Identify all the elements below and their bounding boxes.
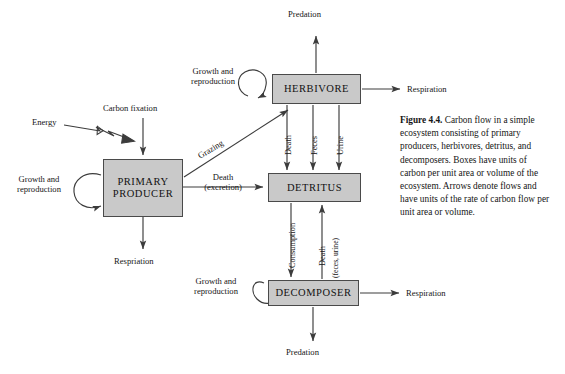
node-decomposer-label: DECOMPOSER — [275, 287, 351, 299]
label-herb-growth-line1: Growth and — [193, 66, 234, 76]
node-primary-producer-line1: PRIMARY — [117, 176, 168, 187]
arrow-loop-primary-producer — [74, 174, 101, 208]
label-herb-growth-line2: reproduction — [191, 76, 235, 86]
label-herbivore-respiration: Respiration — [407, 84, 447, 94]
node-herbivore-label: HERBIVORE — [284, 83, 349, 95]
node-detritus: DETRITUS — [268, 173, 361, 202]
label-consumption: Consumption — [288, 223, 297, 268]
node-primary-producer-line2: PRODUCER — [113, 188, 173, 199]
label-decomposer-death: Death — [318, 246, 327, 266]
node-primary-producer: PRIMARY PRODUCER — [103, 159, 183, 217]
label-herbivore-urine: Urine — [336, 136, 345, 155]
label-energy: Energy — [32, 117, 57, 127]
label-herbivore-death: Death — [284, 135, 293, 155]
arrow-grazing — [184, 110, 288, 177]
label-pp-respiration: Respriation — [114, 256, 154, 266]
label-herbivore-feces: Feces — [310, 136, 319, 155]
label-decomposer-predation: Predation — [286, 347, 319, 357]
label-decomposer-respiration: Respiration — [406, 288, 446, 298]
figure-caption-label: Figure 4.4. — [400, 115, 442, 125]
label-pp-death-line1: Death — [213, 172, 234, 182]
arrow-energy — [64, 125, 135, 143]
label-pp-growth-line2: reproduction — [17, 184, 61, 194]
node-detritus-label: DETRITUS — [287, 182, 342, 194]
label-herbivore-predation: Predation — [288, 9, 321, 19]
label-decomp-growth-line2: reproduction — [194, 286, 238, 296]
label-carbon-fixation: Carbon fixation — [103, 103, 157, 113]
figure-page: PRIMARY PRODUCER HERBIVORE DETRITUS DECO… — [0, 0, 565, 374]
figure-caption-text: Carbon flow in a simple ecosystem consis… — [400, 115, 549, 217]
label-pp-death-line2: (excretion) — [204, 182, 242, 192]
node-decomposer: DECOMPOSER — [268, 280, 359, 306]
label-decomp-growth-line1: Growth and — [196, 276, 237, 286]
label-pp-growth-line1: Growth and — [19, 174, 60, 184]
figure-caption: Figure 4.4. Carbon flow in a simple ecos… — [400, 114, 550, 220]
node-herbivore: HERBIVORE — [272, 74, 361, 104]
label-decomposer-death-paren: (feces, urine) — [331, 238, 340, 278]
